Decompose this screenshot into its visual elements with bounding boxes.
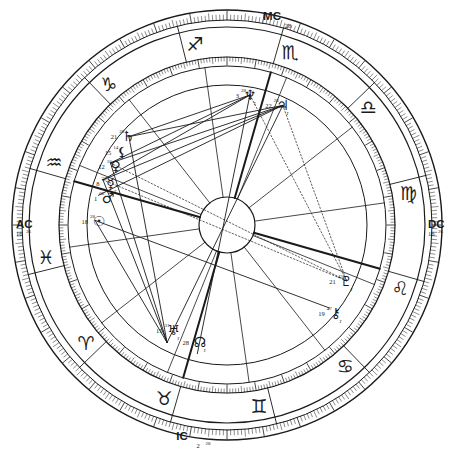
planet-minute-mars: 06 [99,191,105,196]
axis-label-mc: MC [263,10,281,22]
planet-retrograde-uranus: r [177,335,179,341]
planet-degree-mars: 1 [94,195,97,202]
planet-minute-chiron: 47 [327,306,333,311]
sign-glyph-aquarius: ♒ [46,151,63,173]
planet-degree-saturn: 21 [111,133,118,140]
planet-minute-jupiter: 28 [274,98,280,103]
planet-minute-pluto: 43 [338,274,344,279]
sign-glyph-pisces: ♓ [37,246,54,268]
chart-canvas: ♈♓♒♑♐♏♎♍♌♋♊♉ ♅1531r☊28r⚷1947r♄2128⚸1514♀… [0,0,454,450]
planet-degree-north-node: 28 [183,339,190,346]
planet-minute-neptune: 28 [241,88,247,93]
sign-glyph-aries: ♈ [78,332,95,354]
sign-glyph-scorpio: ♏ [281,41,298,63]
planet-minute-uranus: 31 [164,323,170,328]
sign-glyph-sagittarius: ♐ [187,33,204,55]
planet-retrograde-jupiter: r [287,110,289,116]
axis-degree-mc: 28 [285,22,292,29]
planet-minute-mercury: 23 [101,176,107,181]
axis-minute-ac: 26 [26,229,32,234]
planet-degree-lilith: 15 [105,149,112,156]
planet-degree-pluto: 21 [329,278,336,285]
planet-degree-venus: 12 [98,163,105,170]
sign-glyph-taurus: ♉ [156,387,173,409]
axis-label-ic: IC [176,430,188,442]
planet-minute-lilith: 14 [113,145,119,150]
planet-retrograde-north-node: r [204,347,206,353]
planet-degree-jupiter: 22 [265,102,272,109]
planet-glyph-venus: ♀ [111,158,121,174]
planet-degree-uranus: 15 [156,327,163,334]
planet-degree-mercury: 8 [96,180,99,187]
planet-degree-neptune: 3 [236,92,239,99]
sign-glyph-virgo: ♍ [400,182,417,204]
planet-degree-chiron: 19 [318,310,325,317]
planet-retrograde-chiron: r [340,318,342,324]
natal-chart-wheel: ♈♓♒♑♐♏♎♍♌♋♊♉ ♅1531r☊28r⚷1947r♄2128⚸1514♀… [0,0,454,450]
planet-retrograde-pluto: r [351,286,353,292]
axis-degree-ic: 2 [196,442,199,449]
axis-minute-ic: 28 [206,441,212,446]
planet-minute-sun: 28 [90,214,96,219]
sign-glyph-cancer: ♋ [337,355,354,377]
sign-glyph-gemini: ♊ [250,395,267,417]
planet-retrograde-neptune: r [254,100,256,106]
sign-glyph-capricorn: ♑ [100,73,117,95]
sign-glyph-libra: ♎ [359,96,376,118]
axis-degree-dc: 16 [428,230,435,237]
axis-minute-dc: 26 [438,229,444,234]
planet-degree-sun: 18 [82,218,89,225]
planet-minute-saturn: 28 [119,129,125,134]
axis-degree-ac: 16 [16,230,23,237]
sign-glyph-leo: ♌ [391,277,408,299]
planet-minute-venus: 10 [107,159,113,164]
planet-retrograde-mercury: r [114,188,116,194]
